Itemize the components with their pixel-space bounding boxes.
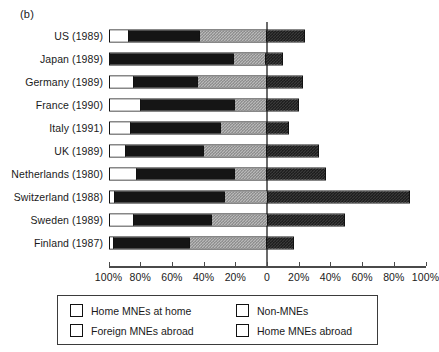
bar-segment-black [128,30,199,41]
bar-segment-dark-dotted [266,76,303,87]
stacked-bar [109,167,326,180]
legend-swatch-home-mnes-at-home [70,304,83,317]
x-tick-label: 100% [95,271,122,283]
category-label: Finland (1987) [34,237,103,249]
bar-segment-black [125,145,203,156]
stacked-bar [109,144,320,157]
stacked-bar [109,121,290,134]
x-tick [109,262,110,266]
bar-segment-white [110,145,125,156]
bar-segment-dark-dotted [266,99,298,110]
legend-item: Home MNEs abroad [236,324,352,337]
stacked-bar [109,52,283,65]
x-tick [267,262,268,266]
stacked-bar [109,190,410,203]
category-label: France (1990) [36,99,103,111]
legend-label: Home MNEs at home [91,305,191,317]
bar-segment-light-dotted [203,145,266,156]
legend-item: Foreign MNEs abroad [70,324,194,337]
bar-row: UK (1989) [0,139,434,162]
bar-segment-black [110,53,234,64]
legend-item: Home MNEs at home [70,304,191,317]
x-tick [204,262,205,266]
category-label: UK (1989) [54,145,103,157]
bar-row: Italy (1991) [0,116,434,139]
category-label: Japan (1989) [40,53,103,65]
bar-row: Netherlands (1980) [0,162,434,185]
bar-segment-dark-dotted [266,122,289,133]
x-tick [299,262,300,266]
bar-row: Switzerland (1988) [0,185,434,208]
x-tick-label: 80% [383,271,404,283]
bar-segment-light-dotted [199,30,266,41]
legend-label: Non-MNEs [257,305,308,317]
category-label: Netherlands (1980) [11,168,103,180]
category-label: Switzerland (1988) [14,191,103,203]
x-tick-label: 60% [351,271,372,283]
bar-segment-light-dotted [220,122,266,133]
bar-segment-black [133,76,197,87]
bar-segment-light-dotted [197,76,266,87]
x-tick-label: 100% [412,271,439,283]
category-label: US (1989) [54,30,103,42]
legend-label: Foreign MNEs abroad [91,325,194,337]
bar-segment-light-dotted [234,168,266,179]
stacked-bar [109,213,345,226]
bar-row: France (1990) [0,93,434,116]
bar-segment-dark-dotted [266,145,318,156]
x-tick-label: 40% [320,271,341,283]
bar-segment-light-dotted [233,53,265,64]
bar-segment-light-dotted [189,237,266,248]
bar-segment-black [133,214,212,225]
x-axis-line [109,266,426,268]
bar-segment-dark-dotted [266,30,304,41]
stacked-bar [109,75,304,88]
bar-row: US (1989) [0,24,434,47]
bar-row: Sweden (1989) [0,208,434,231]
bar-segment-black [136,168,235,179]
bar-segment-light-dotted [211,214,266,225]
stacked-bar [109,98,299,111]
x-tick [140,262,141,266]
bar-segment-dark-dotted [267,214,344,225]
bar-segment-white [110,76,133,87]
bar-segment-black [130,122,220,133]
legend-swatch-non-mnes [236,304,249,317]
category-label: Germany (1989) [25,76,103,88]
x-tick-label: 60% [161,271,182,283]
bar-row: Finland (1987) [0,231,434,254]
x-tick [172,262,173,266]
chart-plot-area: US (1989)Japan (1989)Germany (1989)Franc… [0,22,434,272]
bar-segment-dark-dotted [267,191,408,202]
bar-segment-black [140,99,234,110]
bar-row: Germany (1989) [0,70,434,93]
stacked-bar [109,29,306,42]
panel-label: (b) [20,8,34,20]
x-tick-label: 40% [193,271,214,283]
legend-swatch-home-mnes-abroad [236,324,249,337]
bar-segment-light-dotted [224,191,267,202]
x-tick [330,262,331,266]
legend-swatch-foreign-mnes-abroad [70,324,83,337]
bar-segment-white [110,214,133,225]
x-tick-label: 20% [225,271,246,283]
category-label: Sweden (1989) [30,214,103,226]
bar-segment-black [114,191,224,202]
bar-segment-white [110,99,141,110]
x-tick-label: 0 [264,271,270,283]
bar-segment-light-dotted [234,99,266,110]
legend-label: Home MNEs abroad [257,325,352,337]
bar-segment-white [110,168,136,179]
x-tick [362,262,363,266]
stacked-bar [109,236,294,249]
bar-segment-dark-dotted [266,237,293,248]
bar-segment-dark-dotted [266,168,324,179]
x-tick [394,262,395,266]
x-tick [426,262,427,266]
x-tick-label: 20% [288,271,309,283]
bar-segment-black [113,237,190,248]
x-tick [235,262,236,266]
x-tick-label: 80% [130,271,151,283]
legend-item: Non-MNEs [236,304,308,317]
bar-segment-white [110,30,129,41]
